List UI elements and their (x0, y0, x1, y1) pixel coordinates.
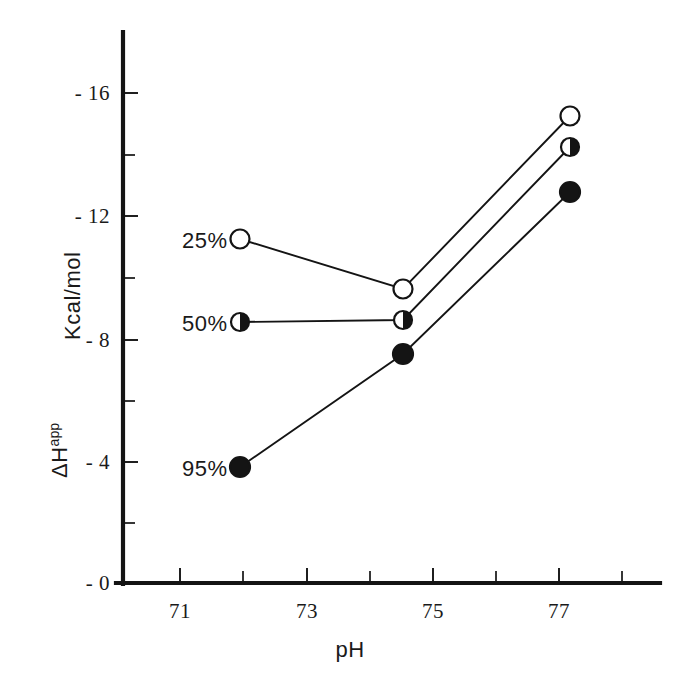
y-tick-label-0: - 0 (55, 571, 110, 596)
x-tick-label-71: 71 (150, 599, 210, 624)
series-label-25-percent: 25% (182, 228, 228, 254)
x-axis-title: pH (310, 637, 390, 663)
series-25-point-2 (561, 107, 580, 126)
series-95-point-1 (393, 344, 413, 364)
y-tick-label-12: - 12 (55, 204, 110, 229)
x-ticks-group (180, 568, 622, 583)
series-95-point-0 (230, 457, 250, 477)
series-25-point-0 (231, 230, 250, 249)
y-axis-units-title: Kcal/mol (60, 252, 86, 340)
series-50-point-0 (231, 313, 249, 331)
y-axis-symbol-title: ΔHapp (46, 423, 73, 478)
x-tick-label-75: 75 (403, 599, 463, 624)
y-tick-label-16: - 16 (55, 81, 110, 106)
chart-figure: - 16 - 12 - 8 - 4 - 0 71 73 75 77 pH Kca… (0, 0, 685, 687)
series-label-95-percent: 95% (182, 456, 228, 482)
series-50-point-2 (561, 138, 579, 156)
series-25-point-1 (394, 280, 413, 299)
y-axis-symbol-text: ΔH (47, 446, 72, 478)
y-axis-superscript-text: app (46, 423, 62, 446)
y-ticks-group (116, 93, 138, 583)
series-label-50-percent: 50% (182, 311, 228, 337)
series-25-line (240, 116, 570, 289)
series-25-percent (231, 107, 580, 299)
series-95-point-2 (560, 182, 580, 202)
x-tick-label-77: 77 (529, 599, 589, 624)
x-tick-label-73: 73 (277, 599, 337, 624)
series-50-point-1 (394, 311, 412, 329)
